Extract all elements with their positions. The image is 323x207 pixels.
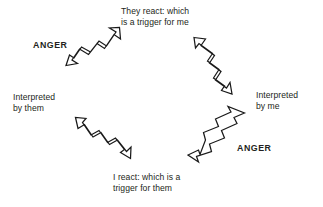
label-interpreted-by-them: Interpreted by them [13,92,55,113]
label-they-react-trigger-for-me: They react: which is a trigger for me [121,6,189,27]
zigzag-arrow-down-right [194,38,232,95]
zigzag-arrow-up-right [66,28,121,66]
label-i-react-trigger-for-them: I react: which is a trigger for them [113,172,180,193]
zigzag-arrow-down-left [188,107,245,163]
label-interpreted-by-me: Interpreted by me [256,90,298,111]
zigzag-arrow-up-left [76,118,132,159]
label-anger-right: ANGER [237,143,272,154]
label-anger-left: ANGER [33,40,68,51]
anger-cycle-diagram: They react: which is a trigger for me In… [0,0,323,207]
